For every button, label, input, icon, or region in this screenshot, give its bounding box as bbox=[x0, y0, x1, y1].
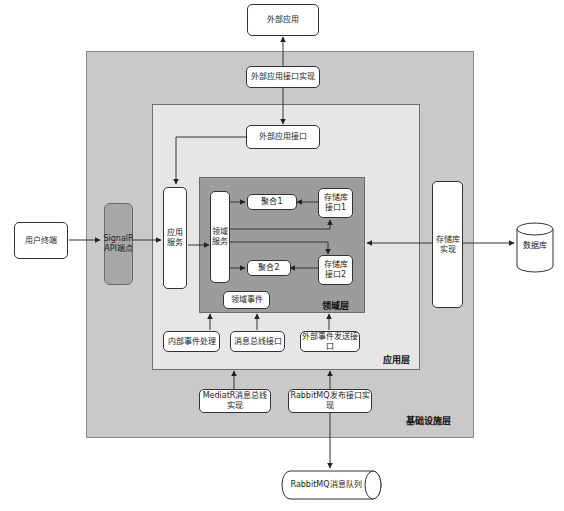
user-terminal-label: 用户终端 bbox=[25, 236, 57, 246]
message-bus-interface-node[interactable]: 消息总线接口 bbox=[230, 331, 285, 352]
app-service-label: 应用服务 bbox=[165, 228, 185, 248]
internal-event-handler-node[interactable]: 内部事件处理 bbox=[163, 331, 220, 352]
rabbitmq-queue-node[interactable]: RabbitMQ消息队列 bbox=[284, 474, 368, 496]
external-app-label: 外部应用 bbox=[267, 15, 299, 25]
domain-service-node[interactable]: 领域服务 bbox=[210, 191, 230, 283]
external-event-sender-node[interactable]: 外部事件发送接口 bbox=[300, 331, 360, 352]
domain-layer-label: 领域层 bbox=[322, 299, 349, 312]
repo-interface1-label: 存储库接口1 bbox=[320, 193, 351, 213]
user-terminal-node[interactable]: 用户终端 bbox=[14, 222, 68, 259]
aggregate1-label: 聚合1 bbox=[261, 197, 282, 207]
database-label: 数据库 bbox=[523, 241, 547, 251]
aggregate1-node[interactable]: 聚合1 bbox=[247, 194, 297, 210]
aggregate2-label: 聚合2 bbox=[258, 263, 279, 273]
mediatr-impl-node[interactable]: MediatR消息总线实现 bbox=[199, 389, 271, 413]
external-app-node[interactable]: 外部应用 bbox=[247, 4, 319, 36]
aggregate2-node[interactable]: 聚合2 bbox=[247, 260, 291, 276]
domain-service-label: 领域服务 bbox=[212, 227, 228, 247]
external-app-interface-impl-label: 外部应用接口实现 bbox=[251, 72, 315, 82]
rabbitmq-impl-node[interactable]: RabbitMQ发布接口实现 bbox=[288, 389, 372, 413]
external-event-sender-label: 外部事件发送接口 bbox=[302, 332, 358, 352]
application-layer-label: 应用层 bbox=[383, 353, 410, 366]
external-app-interface-node[interactable]: 外部应用接口 bbox=[246, 125, 320, 149]
app-service-node[interactable]: 应用服务 bbox=[163, 187, 187, 289]
rabbitmq-impl-label: RabbitMQ发布接口实现 bbox=[290, 391, 370, 411]
infrastructure-layer-label: 基础设施层 bbox=[406, 414, 451, 427]
external-app-interface-impl-node[interactable]: 外部应用接口实现 bbox=[246, 66, 320, 88]
signalr-api-label: SignalR API端点 bbox=[103, 234, 133, 254]
domain-event-label: 领域事件 bbox=[231, 295, 263, 305]
rabbitmq-queue-label: RabbitMQ消息队列 bbox=[291, 480, 362, 490]
repo-interface2-node[interactable]: 存储库接口2 bbox=[318, 255, 353, 285]
database-node[interactable]: 数据库 bbox=[517, 236, 553, 256]
signalr-api-node[interactable]: SignalR API端点 bbox=[104, 203, 133, 285]
internal-event-handler-label: 内部事件处理 bbox=[168, 337, 216, 347]
domain-event-node[interactable]: 领域事件 bbox=[223, 291, 270, 309]
message-bus-interface-label: 消息总线接口 bbox=[234, 337, 282, 347]
repo-impl-node[interactable]: 存储库实现 bbox=[432, 181, 463, 308]
repo-interface1-node[interactable]: 存储库接口1 bbox=[318, 188, 353, 218]
repo-interface2-label: 存储库接口2 bbox=[320, 260, 351, 280]
repo-impl-label: 存储库实现 bbox=[434, 235, 461, 255]
mediatr-impl-label: MediatR消息总线实现 bbox=[201, 391, 269, 411]
external-app-interface-label: 外部应用接口 bbox=[259, 132, 307, 142]
